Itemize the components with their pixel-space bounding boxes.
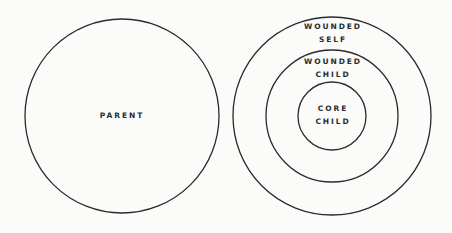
wounded-self-circle xyxy=(233,17,431,215)
core-child-label-line2: CHILD xyxy=(315,118,350,126)
wounded-child-label-line1: WOUNDED xyxy=(304,58,362,66)
wounded-child-label-line2: CHILD xyxy=(315,71,350,79)
core-child-circle xyxy=(298,82,366,150)
wounded-self-label-line2: SELF xyxy=(319,36,347,44)
diagram-canvas xyxy=(0,0,452,233)
wounded-self-label-line1: WOUNDED xyxy=(304,23,362,31)
core-child-label-line1: CORE xyxy=(318,105,348,113)
parent-label: PARENT xyxy=(100,112,144,120)
